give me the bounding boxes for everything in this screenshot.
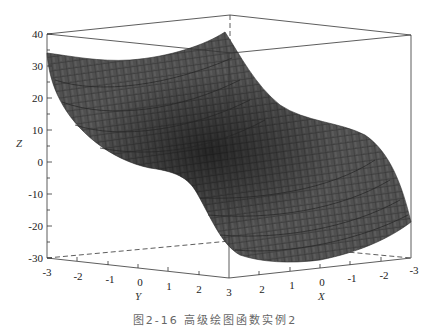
svg-text:1: 1 xyxy=(166,280,172,292)
svg-text:-1: -1 xyxy=(105,273,114,285)
x-axis-title: X xyxy=(317,290,326,302)
svg-text:2: 2 xyxy=(196,283,202,295)
top-box-edges xyxy=(47,15,411,35)
svg-text:-3: -3 xyxy=(409,264,419,276)
svg-text:-1: -1 xyxy=(347,272,356,284)
svg-text:-10: -10 xyxy=(28,188,43,200)
svg-text:2: 2 xyxy=(259,283,265,295)
svg-text:0: 0 xyxy=(137,276,143,288)
figure-caption: 图2-16 高级绘图函数实例2 xyxy=(0,311,430,327)
z-axis-title: Z xyxy=(16,137,23,149)
x-tick-labels: 2 1 0 -1 -2 -3 xyxy=(259,264,419,295)
svg-text:-2: -2 xyxy=(379,269,388,281)
svg-text:-20: -20 xyxy=(28,220,43,232)
svg-text:3: 3 xyxy=(226,286,232,298)
z-tick-labels: 40 30 20 10 0 -10 -20 -30 xyxy=(28,28,43,264)
svg-text:1: 1 xyxy=(289,279,295,291)
svg-text:30: 30 xyxy=(32,60,44,72)
svg-text:-3: -3 xyxy=(42,266,52,278)
y-axis-title: Y xyxy=(135,290,143,302)
svg-text:20: 20 xyxy=(32,92,44,104)
svg-text:10: 10 xyxy=(32,124,44,136)
svg-text:-2: -2 xyxy=(73,270,82,282)
svg-text:-30: -30 xyxy=(28,252,43,264)
svg-text:0: 0 xyxy=(38,156,44,168)
svg-text:0: 0 xyxy=(319,276,325,288)
svg-text:40: 40 xyxy=(32,28,44,40)
